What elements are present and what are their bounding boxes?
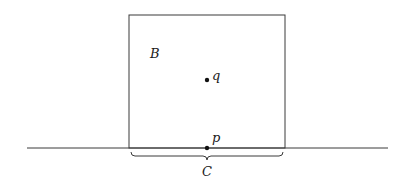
brace-c	[131, 152, 283, 160]
box-label-b: B	[149, 46, 160, 61]
brace-label-c: C	[202, 164, 212, 179]
point-label-p: p	[212, 130, 221, 145]
point-label-q: q	[212, 68, 220, 83]
diagram-canvas: B q p C	[0, 0, 408, 186]
point-q	[205, 78, 209, 82]
point-p	[205, 146, 209, 150]
